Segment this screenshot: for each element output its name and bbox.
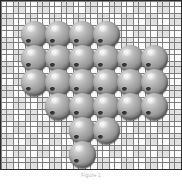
- piece-r5c3[interactable]: [69, 117, 96, 144]
- piece-r5c4[interactable]: [93, 117, 120, 144]
- piece-r3c6[interactable]: [141, 69, 168, 96]
- piece-r3c4[interactable]: [93, 69, 120, 96]
- piece-r3c3[interactable]: [69, 69, 96, 96]
- piece-r2c1[interactable]: [21, 45, 48, 72]
- piece-r2c4[interactable]: [93, 45, 120, 72]
- piece-r2c2[interactable]: [45, 45, 72, 72]
- piece-r4c5[interactable]: [117, 93, 144, 120]
- piece-r4c6[interactable]: [141, 93, 168, 120]
- screenshot-root: Figure 1: [0, 0, 182, 186]
- figure-caption: Figure 1: [0, 172, 182, 179]
- piece-r3c1[interactable]: [21, 69, 48, 96]
- piece-r2c5[interactable]: [117, 45, 144, 72]
- piece-r4c2[interactable]: [45, 93, 72, 120]
- piece-r1c1[interactable]: [21, 21, 48, 48]
- piece-r1c3[interactable]: [69, 21, 96, 48]
- piece-r3c2[interactable]: [45, 69, 72, 96]
- marble-game-board[interactable]: [0, 0, 182, 170]
- piece-r6c3[interactable]: [69, 141, 96, 168]
- piece-r4c4[interactable]: [93, 93, 120, 120]
- piece-r3c5[interactable]: [117, 69, 144, 96]
- piece-r1c4[interactable]: [93, 21, 120, 48]
- piece-r2c3[interactable]: [69, 45, 96, 72]
- piece-r2c6[interactable]: [141, 45, 168, 72]
- piece-r1c2[interactable]: [45, 21, 72, 48]
- piece-r4c3[interactable]: [69, 93, 96, 120]
